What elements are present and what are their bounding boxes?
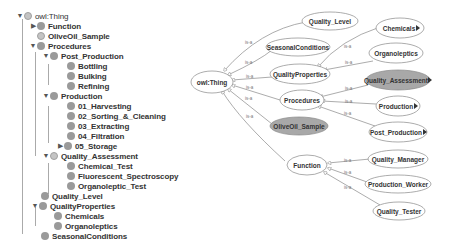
svg-text:QualityProperties: QualityProperties [273, 71, 328, 79]
svg-text:is-a: is-a [344, 158, 352, 163]
node-post-production[interactable]: Post_Production [369, 122, 427, 142]
edge-is-a [320, 85, 368, 97]
svg-text:Post_Production: Post_Production [370, 129, 422, 136]
svg-text:is-a: is-a [345, 99, 353, 104]
node-organoleptics[interactable]: Organoleptics [369, 43, 423, 63]
svg-text:is-a: is-a [245, 40, 253, 45]
svg-text:Production_Worker: Production_Worker [368, 181, 429, 188]
svg-text:Quality_Tester: Quality_Tester [377, 208, 422, 216]
svg-text:is-a: is-a [246, 114, 254, 119]
svg-text:Function: Function [293, 162, 320, 169]
svg-text:is-a: is-a [344, 111, 352, 116]
svg-text:is-a: is-a [345, 86, 353, 91]
svg-text:Quality_Manager: Quality_Manager [372, 156, 425, 164]
node-quality-properties[interactable]: QualityProperties [270, 64, 330, 84]
svg-text:is-a: is-a [344, 185, 352, 190]
svg-text:owl:Thing: owl:Thing [197, 79, 228, 87]
node-production[interactable]: Production [376, 96, 420, 116]
svg-text:SeasonalConditions: SeasonalConditions [267, 44, 330, 51]
node-function[interactable]: Function [287, 155, 327, 175]
svg-text:is-a: is-a [344, 44, 352, 49]
svg-text:Procedures: Procedures [284, 97, 320, 104]
svg-text:Production: Production [379, 103, 413, 110]
node-owl-thing[interactable]: owl:Thing [191, 71, 233, 93]
node-oliveoil-sample[interactable]: OliveOil_Sample [270, 117, 328, 135]
svg-text:is-a: is-a [345, 60, 353, 65]
svg-text:Quality_Assessment: Quality_Assessment [364, 77, 429, 85]
svg-text:is-a: is-a [246, 74, 254, 79]
node-quality-level[interactable]: Quality_Level [302, 12, 358, 30]
node-procedures[interactable]: Procedures [280, 90, 324, 110]
svg-text:is-a: is-a [344, 170, 352, 175]
svg-text:is-a: is-a [245, 96, 253, 101]
node-production-worker[interactable]: Production_Worker [365, 175, 431, 193]
node-quality-assessment[interactable]: Quality_Assessment [364, 70, 432, 90]
svg-text:is-a: is-a [245, 60, 253, 65]
svg-text:Quality_Level: Quality_Level [309, 18, 351, 26]
node-chemicals[interactable]: Chemicals [376, 18, 424, 38]
svg-text:Organoleptics: Organoleptics [374, 50, 418, 58]
node-quality-tester[interactable]: Quality_Tester [373, 202, 425, 220]
ontology-graph: is-a is-a is-a is-a is-a is-a is-a is-a … [0, 0, 452, 249]
svg-text:OliveOil_Sample: OliveOil_Sample [273, 123, 325, 131]
node-quality-manager[interactable]: Quality_Manager [368, 150, 428, 168]
svg-text:is-a: is-a [246, 85, 254, 90]
svg-text:Chemicals: Chemicals [383, 25, 416, 32]
node-seasonal-conditions[interactable]: SeasonalConditions [266, 38, 330, 56]
